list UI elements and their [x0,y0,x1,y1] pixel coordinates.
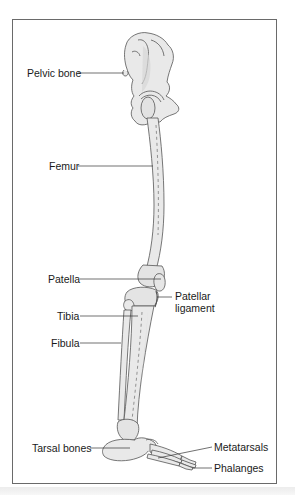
patella-shape [154,274,165,291]
label-pelvic-bone: Pelvic bone [27,67,81,79]
femur-shape [138,118,165,287]
label-metatarsals: Metatarsals [214,441,268,453]
label-femur: Femur [49,160,79,172]
label-phalanges: Phalanges [214,462,264,474]
label-patellar-ligament-line2: ligament [175,302,215,314]
label-patellar-ligament-line1: Patellar [175,290,211,302]
label-tarsal-bones: Tarsal bones [32,442,92,454]
metatarsals-shape [147,444,182,466]
label-patella: Patella [48,273,80,285]
label-fibula: Fibula [51,337,80,349]
label-tibia: Tibia [57,310,79,322]
